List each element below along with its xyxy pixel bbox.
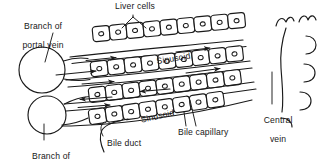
label-branch-portal-vein: Branch of portal vein bbox=[2, 12, 74, 60]
label-liver-cells: Liver cells bbox=[106, 2, 164, 12]
hepatic-artery-circle bbox=[28, 96, 66, 134]
label-branch-hepatic-artery: Branch of hepatic artery bbox=[0, 142, 92, 165]
arrow-sinusoid-3a bbox=[78, 105, 110, 108]
hepatocyte-plate-1 bbox=[92, 12, 246, 42]
label-central-vein: Central vein bbox=[250, 106, 296, 154]
label-central-vein-line1: Central bbox=[264, 115, 293, 125]
label-central-vein-line2: vein bbox=[270, 134, 286, 144]
label-branch-hepatic-artery-line1: Branch of bbox=[32, 151, 70, 161]
label-bile-duct: Bile duct bbox=[107, 139, 141, 149]
liver-lobule-diagram: Liver cells Branch of portal vein Sinuso… bbox=[0, 0, 326, 165]
label-bile-capillary: Bile capillary bbox=[178, 128, 228, 138]
label-branch-portal-vein-line2: portal vein bbox=[22, 40, 63, 50]
label-branch-portal-vein-line1: Branch of bbox=[24, 21, 62, 31]
